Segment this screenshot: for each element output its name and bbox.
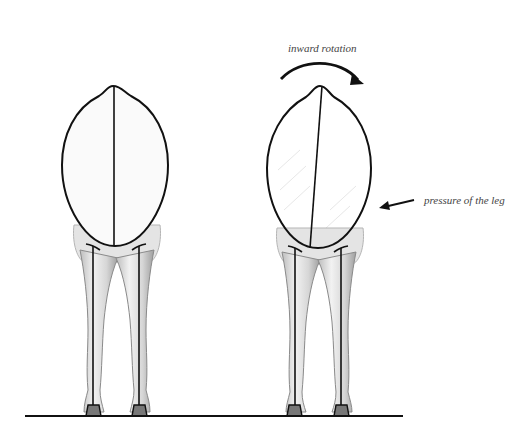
curved-arrow-right-icon: [281, 63, 358, 80]
right-hoof: [132, 405, 147, 416]
diagram-canvas: [0, 0, 529, 446]
rotation-label: inward rotation: [288, 42, 357, 54]
body-cross-section: [267, 86, 371, 248]
body-axis-line-tilted: [310, 86, 322, 248]
right-leg: [318, 252, 356, 412]
pressure-label: pressure of the leg: [424, 194, 505, 206]
left-leg: [282, 252, 320, 412]
body-cross-section: [62, 86, 168, 246]
right-leg: [116, 250, 154, 412]
left-hoof: [287, 405, 302, 416]
left-hoof: [86, 405, 101, 416]
right-hoof: [334, 405, 349, 416]
horse-figure-rotated: [267, 86, 371, 416]
horse-figure-neutral: [62, 86, 168, 416]
left-leg: [80, 250, 118, 412]
